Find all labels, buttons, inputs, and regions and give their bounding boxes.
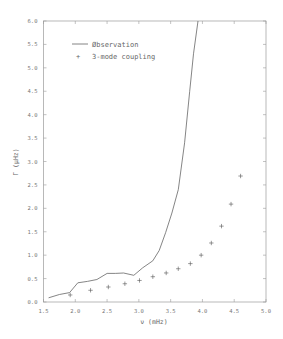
plot-frame [44, 21, 267, 302]
legend: Øbservation + 3-mode coupling [72, 41, 155, 62]
y-tick-label: 0.0 [28, 299, 38, 305]
plus-marker [238, 174, 242, 178]
plus-marker [68, 293, 72, 297]
legend-label-3-mode-coupling: 3-mode coupling [92, 53, 155, 61]
y-axis-label: Γ (μHz) [12, 148, 20, 175]
x-tick-label: 1.5 [39, 308, 49, 314]
x-axis-label: ν (mHz) [140, 318, 167, 326]
chart: 0.00.51.01.52.02.53.03.54.04.55.05.56.0 … [0, 0, 283, 339]
y-tick-label: 3.5 [28, 135, 38, 141]
x-tick-label: 4.5 [229, 308, 239, 314]
y-tick-label: 5.0 [28, 65, 38, 71]
x-tick-label: 2.5 [102, 308, 112, 314]
plus-marker [123, 282, 127, 286]
y-tick-label: 5.5 [28, 41, 38, 47]
y-tick-label: 1.0 [28, 252, 38, 258]
y-tick-label: 3.0 [28, 159, 38, 165]
plus-marker [188, 261, 192, 265]
plus-marker [164, 271, 168, 275]
y-tick-label: 4.0 [28, 112, 38, 118]
x-tick-label: 2.0 [70, 308, 80, 314]
plus-marker [106, 285, 110, 289]
x-tick-label: 4.0 [197, 308, 207, 314]
y-tick-label: 1.5 [28, 229, 38, 235]
plus-marker [229, 202, 233, 206]
x-tick-label: 3.5 [166, 308, 176, 314]
y-tick-label: 2.0 [28, 205, 38, 211]
y-tick-label: 4.5 [28, 88, 38, 94]
legend-label-observation: Øbservation [92, 41, 138, 49]
plus-marker [219, 224, 223, 228]
plus-marker [176, 267, 180, 271]
observation-line [49, 21, 198, 298]
legend-marker-symbol: + [76, 53, 80, 61]
y-tick-label: 2.5 [28, 182, 38, 188]
x-tick-label: 5.0 [261, 308, 271, 314]
plus-marker [137, 278, 141, 282]
y-tick-label: 0.5 [28, 276, 38, 282]
plus-marker [151, 275, 155, 279]
y-tick-label: 6.0 [28, 18, 38, 24]
observation-polyline [49, 21, 198, 298]
plus-marker [88, 288, 92, 292]
y-axis-ticks: 0.00.51.01.52.02.53.03.54.04.55.05.56.0 [28, 18, 266, 305]
plot-border [44, 21, 267, 302]
x-tick-label: 3.0 [134, 308, 144, 314]
three-mode-coupling-markers [68, 174, 243, 297]
plus-marker [199, 253, 203, 257]
plus-marker [209, 241, 213, 245]
x-axis-ticks: 1.52.02.53.03.54.04.55.0 [39, 21, 271, 314]
